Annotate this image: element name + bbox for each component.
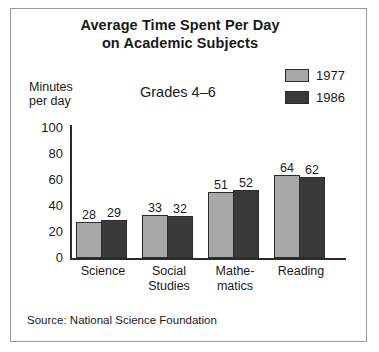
y-axis-title: Minutes per day (29, 80, 73, 108)
bar-group: 3332SocialStudies (142, 128, 196, 258)
legend-swatch-1977 (285, 69, 309, 82)
bar-value-label: 52 (239, 177, 253, 189)
y-axis-line (70, 125, 72, 258)
legend-label-1977: 1977 (316, 69, 345, 82)
y-tick-label: 60 (33, 173, 63, 186)
x-tick-label-line: matics (195, 279, 275, 294)
y-tick-label: 100 (33, 121, 63, 134)
bar-1977-science: 28 (76, 222, 102, 258)
bar-value-label: 51 (214, 179, 228, 191)
bar-value-label: 33 (148, 202, 162, 214)
legend-label-1986: 1986 (316, 91, 345, 104)
bar-1986-science: 29 (101, 220, 127, 258)
x-tick-label: Reading (261, 264, 341, 279)
chart-subtitle: Grades 4–6 (140, 84, 216, 100)
bar-value-label: 62 (305, 164, 319, 176)
legend-item-1977: 1977 (285, 66, 361, 85)
bar-1986-mathematics: 52 (233, 190, 259, 258)
y-axis-title-line-1: Minutes (29, 80, 73, 94)
bar-pair: 2829 (76, 128, 127, 258)
source-note: Source: National Science Foundation (27, 314, 217, 327)
chart-title-line-1: Average Time Spent Per Day (20, 16, 340, 34)
bar-1977-social-studies: 33 (142, 215, 168, 258)
y-tick-label: 0 (33, 251, 63, 264)
bar-value-label: 29 (107, 207, 121, 219)
bar-group: 5152Mathe-matics (208, 128, 262, 258)
bar-pair: 6462 (274, 128, 325, 258)
bar-pair: 3332 (142, 128, 193, 258)
y-axis-title-line-2: per day (29, 94, 73, 108)
y-tick-label: 40 (33, 199, 63, 212)
bar-value-label: 32 (173, 203, 187, 215)
bar-1986-social-studies: 32 (167, 216, 193, 258)
chart-title: Average Time Spent Per Day on Academic S… (20, 16, 340, 52)
bar-value-label: 28 (82, 209, 96, 221)
bar-value-label: 64 (280, 162, 294, 174)
bar-1977-reading: 64 (274, 175, 300, 258)
y-tick-label: 80 (33, 147, 63, 160)
y-tick-label: 20 (33, 225, 63, 238)
bar-1977-mathematics: 51 (208, 192, 234, 258)
bar-pair: 5152 (208, 128, 259, 258)
legend-swatch-1986 (285, 91, 309, 104)
bar-1986-reading: 62 (299, 177, 325, 258)
legend-item-1986: 1986 (285, 88, 361, 107)
chart-title-line-2: on Academic Subjects (20, 34, 340, 52)
bar-group: 2829Science (76, 128, 130, 258)
chart-legend: 1977 1986 (285, 66, 361, 110)
bar-group: 6462Reading (274, 128, 328, 258)
plot-area: 100806040200 2829Science3332SocialStudie… (70, 128, 344, 258)
chart-figure: Average Time Spent Per Day on Academic S… (0, 0, 379, 352)
x-axis-line (70, 258, 346, 260)
x-tick-label-line: Reading (261, 264, 341, 279)
